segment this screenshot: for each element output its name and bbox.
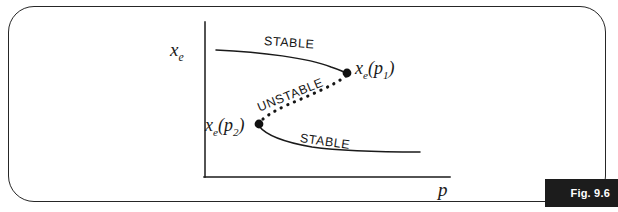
- x-axis-label: p: [438, 180, 448, 199]
- fold-point-lower-label: xe(p2): [205, 116, 245, 134]
- fold-point-upper-label: xe(p1): [355, 59, 395, 77]
- y-axis-label: xe: [170, 40, 184, 59]
- y-axis-label-subscript: e: [178, 51, 183, 64]
- fold-upper-arg-base: p: [374, 58, 383, 78]
- fold-upper-base: x: [355, 58, 363, 78]
- bifurcation-diagram: [0, 0, 618, 212]
- figure-container: xe p xe(p1) xe(p2) STABLE UNSTABLE STABL…: [0, 0, 618, 212]
- fold-lower-arg-base: p: [224, 115, 233, 135]
- fold-lower-close-paren: ): [239, 115, 245, 135]
- figure-caption-box: Fig. 9.6: [545, 179, 618, 207]
- figure-caption-label: Fig. 9.6: [571, 187, 611, 199]
- fold-lower-base: x: [205, 115, 213, 135]
- fold-upper-close-paren: ): [389, 58, 395, 78]
- stable-upper-branch-curve: [216, 50, 347, 74]
- fold-point-upper-marker: [343, 69, 352, 78]
- fold-point-lower-marker: [255, 120, 264, 129]
